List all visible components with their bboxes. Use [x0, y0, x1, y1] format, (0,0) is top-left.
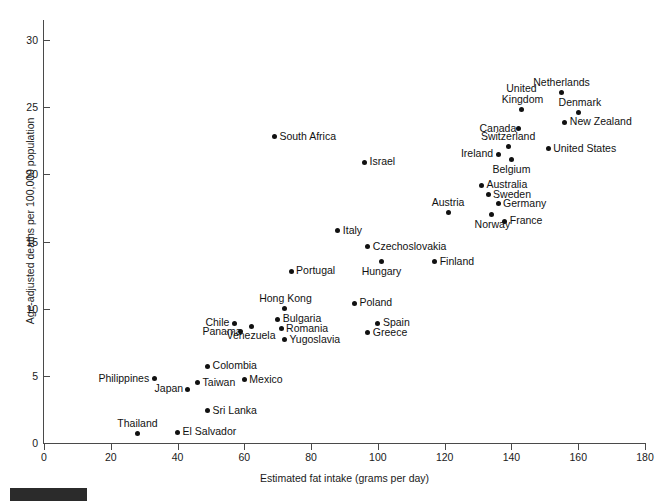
data-point-label: Panama [202, 326, 236, 338]
data-point-label: New Zealand [570, 116, 632, 128]
data-point-label: Finland [440, 256, 474, 268]
data-point-label: Czechoslovakia [373, 241, 447, 253]
data-point[interactable] [506, 144, 511, 149]
data-point-label: Philippines [88, 373, 150, 385]
data-point-label: Ireland [454, 148, 493, 160]
data-point[interactable] [352, 301, 357, 306]
data-point[interactable] [479, 183, 484, 188]
data-point[interactable] [379, 259, 384, 264]
data-point-label: France [510, 215, 543, 227]
data-point[interactable] [279, 326, 284, 331]
data-point[interactable] [175, 430, 180, 435]
data-point[interactable] [272, 134, 277, 139]
data-point[interactable] [546, 146, 551, 151]
data-point[interactable] [496, 152, 501, 157]
y-axis-title: Age-adjusted deaths per 100,000 populati… [24, 91, 36, 351]
data-point-label: Thailand [115, 418, 160, 430]
data-point[interactable] [282, 337, 287, 342]
data-point[interactable] [275, 317, 280, 322]
data-point[interactable] [559, 90, 564, 95]
data-point-label: Hungary [362, 266, 401, 278]
data-point-label: Hong Kong [259, 293, 309, 305]
data-point-label: Portugal [296, 265, 335, 277]
data-point[interactable] [195, 380, 200, 385]
data-point[interactable] [486, 192, 491, 197]
data-point[interactable] [205, 364, 210, 369]
x-axis-title: Estimated fat intake (grams per day) [43, 472, 646, 484]
data-point-label: United Kingdom [502, 83, 541, 106]
data-point-label: Poland [360, 297, 393, 309]
caption-bar [10, 488, 87, 501]
data-point-label: Israel [370, 156, 396, 168]
data-point[interactable] [205, 408, 210, 413]
data-point[interactable] [365, 330, 370, 335]
data-point[interactable] [185, 387, 190, 392]
data-point-label: United States [553, 143, 616, 155]
data-point-label: Taiwan [203, 377, 236, 389]
data-point-label: Denmark [559, 97, 598, 109]
data-point[interactable] [152, 376, 157, 381]
data-point[interactable] [432, 259, 437, 264]
data-point-label: Switzerland [477, 131, 539, 143]
data-point[interactable] [289, 269, 294, 274]
data-point[interactable] [519, 107, 524, 112]
data-point-label: Italy [343, 225, 362, 237]
data-point-label: Sri Lanka [213, 405, 257, 417]
data-point-label: Austria [428, 197, 467, 209]
data-point[interactable] [489, 212, 494, 217]
data-point-label: Mexico [249, 374, 282, 386]
data-point[interactable] [249, 324, 254, 329]
data-point-label: Belgium [492, 164, 531, 176]
data-point-label: El Salvador [183, 426, 237, 438]
data-point-label: Germany [503, 198, 546, 210]
data-point-label: Japan [155, 383, 183, 395]
data-point[interactable] [242, 377, 247, 382]
data-point-label: Colombia [213, 360, 257, 372]
data-point[interactable] [282, 306, 287, 311]
data-point-label: Greece [373, 327, 407, 339]
data-point-label: South Africa [279, 131, 336, 143]
data-point[interactable] [446, 210, 451, 215]
data-point[interactable] [135, 431, 140, 436]
data-point[interactable] [509, 157, 514, 162]
data-point[interactable] [365, 244, 370, 249]
data-point[interactable] [562, 120, 567, 125]
data-point[interactable] [335, 228, 340, 233]
data-point[interactable] [362, 160, 367, 165]
data-point[interactable] [496, 201, 501, 206]
data-point-label: Yugoslavia [289, 334, 340, 346]
